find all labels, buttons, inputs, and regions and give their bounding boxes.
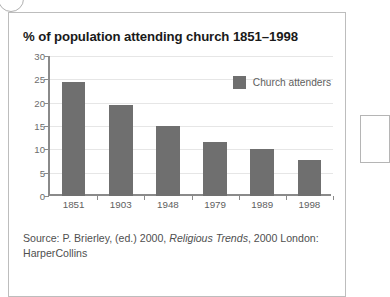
source-note: Source: P. Brierley, (ed.) 2000, Religio… — [23, 231, 323, 260]
x-axis-labels: 185119031948197919891998 — [50, 199, 333, 215]
y-tick-mark — [44, 126, 49, 127]
bar-1903 — [109, 105, 133, 196]
x-tick-label: 1903 — [110, 199, 132, 210]
x-tick-label: 1989 — [251, 199, 273, 210]
decorative-circle-badge — [0, 0, 24, 12]
x-tick-label: 1979 — [204, 199, 226, 210]
x-tick-label: 1998 — [299, 199, 321, 210]
y-axis-labels: 051015202530 — [23, 56, 45, 196]
bar-1979 — [203, 142, 227, 196]
chart-legend: Church attenders — [233, 76, 331, 89]
bar-1851 — [62, 82, 86, 196]
y-tick-mark — [44, 79, 49, 80]
y-tick-mark — [44, 103, 49, 104]
chart-plot-area: 051015202530 Church attenders 1851190319… — [23, 56, 333, 216]
legend-swatch-church-attenders — [233, 76, 246, 89]
y-tick-mark — [44, 56, 49, 57]
source-prefix: Source: P. Brierley, (ed.) 2000, — [23, 232, 169, 244]
bar-1989 — [250, 149, 274, 196]
y-tick-mark — [44, 149, 49, 150]
figure-panel: % of population attending church 1851–19… — [8, 12, 346, 297]
decorative-side-box — [360, 115, 390, 163]
y-tick-mark — [44, 173, 49, 174]
x-tick-label: 1851 — [63, 199, 85, 210]
bar-1948 — [156, 126, 180, 196]
legend-label-church-attenders: Church attenders — [253, 77, 331, 88]
x-tick-mark — [333, 196, 334, 200]
plot-canvas: Church attenders — [50, 56, 333, 196]
y-tick-mark — [44, 196, 49, 197]
bar-1998 — [298, 160, 322, 196]
chart-title: % of population attending church 1851–19… — [23, 29, 298, 44]
source-publication-title: Religious Trends — [169, 232, 248, 244]
x-tick-label: 1948 — [157, 199, 179, 210]
